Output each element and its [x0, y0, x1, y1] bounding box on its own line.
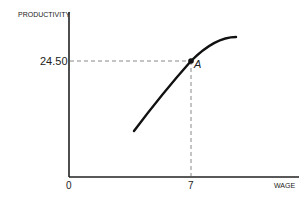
x-tick-value: 7: [188, 180, 194, 191]
y-tick-value: 24.50: [40, 55, 68, 67]
origin-label: 0: [66, 180, 72, 191]
productivity-curve: [134, 37, 236, 131]
point-a-label: A: [193, 58, 201, 70]
point-a-marker: [188, 58, 194, 64]
chart-canvas: PRODUCTIVITY 24.50 A 0 7 WAGE: [0, 0, 308, 203]
y-axis-label: PRODUCTIVITY: [18, 11, 70, 18]
x-axis-label: WAGE: [274, 182, 295, 189]
